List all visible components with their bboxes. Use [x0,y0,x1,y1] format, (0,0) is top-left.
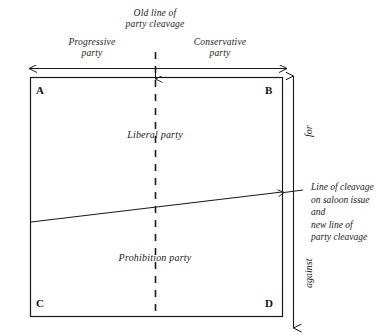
liberal-party-region-label: Liberal party [127,129,183,141]
saloon-cleavage-note: Line of cleavage on saloon issue and new… [311,181,374,244]
saloon-cleavage-sloped-line [31,192,282,222]
party-cleavage-diagram: Old line of party cleavage Progressive p… [0,0,392,336]
old-line-of-party-cleavage-label: Old line of party cleavage [126,8,185,30]
corner-label-b: B [265,84,273,96]
conservative-party-label: Conservative party [194,37,247,59]
prohibition-party-region-label: Prohibition party [119,252,192,264]
corner-label-d: D [265,297,273,309]
axis-label-against: against [303,259,314,288]
corner-label-c: C [36,297,44,309]
progressive-party-label: Progressive party [69,37,116,59]
corner-label-a: A [36,84,44,96]
axis-label-for: for [303,125,314,137]
